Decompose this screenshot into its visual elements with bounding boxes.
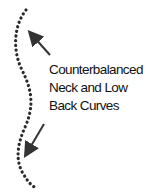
label-line-1: Counterbalanced xyxy=(49,61,143,79)
low-back-arrow-icon xyxy=(28,124,44,151)
curve-label: Counterbalanced Neck and Low Back Curves xyxy=(49,61,143,115)
label-line-3: Back Curves xyxy=(49,97,143,115)
label-line-2: Neck and Low xyxy=(49,79,143,97)
neck-arrow-icon xyxy=(33,36,50,55)
